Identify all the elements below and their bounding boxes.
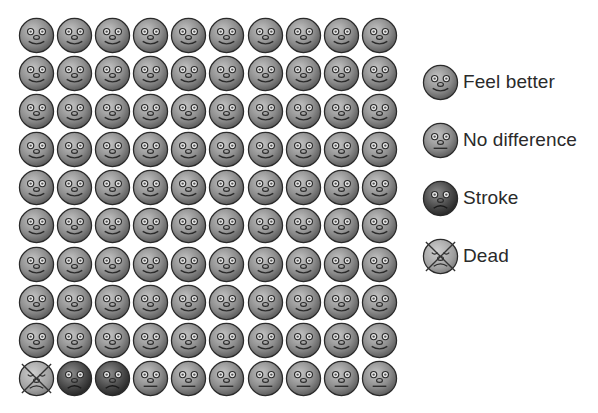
smiling-face-icon — [55, 131, 93, 169]
smiling-face-icon — [361, 54, 399, 92]
smiling-face-icon — [132, 131, 170, 169]
smiling-face-icon — [361, 16, 399, 54]
frowning-dark-face-icon — [422, 180, 459, 217]
legend-label: No difference — [463, 129, 577, 151]
smiling-face-icon — [246, 92, 284, 130]
smiling-face-icon — [17, 16, 55, 54]
smiling-face-icon — [361, 131, 399, 169]
smiling-face-icon — [323, 245, 361, 283]
smiling-face-icon — [55, 245, 93, 283]
smiling-face-icon — [170, 322, 208, 360]
smiling-face-icon — [284, 16, 322, 54]
smiling-face-icon — [93, 245, 131, 283]
legend-item-no-difference: No difference — [422, 120, 577, 160]
smiling-face-icon — [323, 92, 361, 130]
smiling-face-icon — [17, 169, 55, 207]
neutral-face-icon — [208, 360, 246, 398]
smiling-face-icon — [361, 245, 399, 283]
smiling-face-icon — [170, 245, 208, 283]
smiling-face-icon — [246, 245, 284, 283]
smiling-face-icon — [132, 54, 170, 92]
smiling-face-icon — [361, 207, 399, 245]
smiling-face-icon — [208, 169, 246, 207]
smiling-face-icon — [284, 169, 322, 207]
smiling-face-icon — [55, 207, 93, 245]
smiling-face-icon — [323, 131, 361, 169]
smiling-face-icon — [323, 16, 361, 54]
smiling-face-icon — [132, 16, 170, 54]
neutral-face-icon — [323, 360, 361, 398]
smiling-face-icon — [17, 283, 55, 321]
smiling-face-icon — [55, 16, 93, 54]
smiling-face-icon — [208, 245, 246, 283]
smiling-face-icon — [323, 169, 361, 207]
smiling-face-icon — [93, 16, 131, 54]
smiling-face-icon — [284, 322, 322, 360]
crossed-out-face-icon — [422, 238, 459, 275]
smiling-face-icon — [284, 131, 322, 169]
smiling-face-icon — [132, 245, 170, 283]
smiling-face-icon — [208, 92, 246, 130]
smiling-face-icon — [284, 283, 322, 321]
neutral-face-icon — [170, 360, 208, 398]
smiling-face-icon — [17, 245, 55, 283]
smiling-face-icon — [246, 169, 284, 207]
smiling-face-icon — [17, 92, 55, 130]
smiling-face-icon — [284, 245, 322, 283]
smiling-face-icon — [208, 207, 246, 245]
smiling-face-icon — [422, 64, 459, 101]
legend-item-feel-better: Feel better — [422, 62, 577, 102]
smiling-face-icon — [284, 92, 322, 130]
smiling-face-icon — [93, 54, 131, 92]
smiling-face-icon — [284, 54, 322, 92]
smiling-face-icon — [323, 54, 361, 92]
smiling-face-icon — [132, 322, 170, 360]
smiling-face-icon — [132, 169, 170, 207]
smiling-face-icon — [246, 207, 284, 245]
frowning-dark-face-icon — [93, 360, 131, 398]
smiling-face-icon — [170, 207, 208, 245]
smiling-face-icon — [170, 169, 208, 207]
smiling-face-icon — [361, 283, 399, 321]
smiling-face-icon — [170, 283, 208, 321]
smiling-face-icon — [132, 207, 170, 245]
smiling-face-icon — [323, 322, 361, 360]
neutral-face-icon — [132, 360, 170, 398]
smiling-face-icon — [208, 322, 246, 360]
smiling-face-icon — [132, 283, 170, 321]
smiling-face-icon — [246, 16, 284, 54]
legend-item-stroke: Stroke — [422, 178, 577, 218]
smiling-face-icon — [246, 283, 284, 321]
smiling-face-icon — [361, 322, 399, 360]
smiling-face-icon — [93, 207, 131, 245]
chart-legend: Feel betterNo differenceStrokeDead — [422, 62, 577, 294]
smiling-face-icon — [132, 92, 170, 130]
smiling-face-icon — [55, 322, 93, 360]
smiling-face-icon — [93, 283, 131, 321]
crossed-out-face-icon — [17, 360, 55, 398]
legend-label: Feel better — [463, 71, 555, 93]
neutral-face-icon — [246, 360, 284, 398]
smiling-face-icon — [361, 169, 399, 207]
smiling-face-icon — [17, 54, 55, 92]
smiling-face-icon — [208, 131, 246, 169]
neutral-face-icon — [422, 122, 459, 159]
smiling-face-icon — [361, 92, 399, 130]
smiling-face-icon — [170, 92, 208, 130]
smiling-face-icon — [246, 131, 284, 169]
frowning-dark-face-icon — [55, 360, 93, 398]
smiling-face-icon — [17, 322, 55, 360]
smiling-face-icon — [208, 54, 246, 92]
smiling-face-icon — [93, 169, 131, 207]
smiling-face-icon — [55, 54, 93, 92]
smiling-face-icon — [55, 92, 93, 130]
smiling-face-icon — [55, 283, 93, 321]
smiling-face-icon — [93, 92, 131, 130]
smiling-face-icon — [17, 131, 55, 169]
legend-item-dead: Dead — [422, 236, 577, 276]
smiling-face-icon — [284, 207, 322, 245]
smiling-face-icon — [93, 322, 131, 360]
smiling-face-icon — [170, 54, 208, 92]
neutral-face-icon — [284, 360, 322, 398]
smiling-face-icon — [323, 283, 361, 321]
